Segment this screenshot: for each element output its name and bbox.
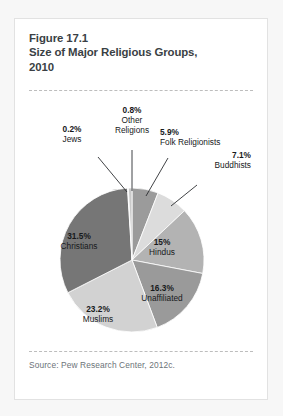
label-unaffiliated-pct: 16.3% [125,283,199,293]
label-hindus: 15% Hindus [133,237,191,257]
label-buddhists: 7.1% Buddhists [143,150,251,170]
label-folk-religionists-name: Folk Religionists [160,137,220,147]
label-muslims: 23.2% Muslims [66,304,130,324]
label-hindus-name: Hindus [133,247,191,257]
label-christians-name: Christians [45,241,113,251]
divider-bottom [29,351,253,352]
label-jews-name: Jews [49,134,95,144]
label-unaffiliated: 16.3% Unaffiliated [125,283,199,303]
label-christians: 31.5% Christians [45,231,113,251]
label-jews: 0.2% Jews [49,124,95,144]
label-folk-religionists: 5.9% Folk Religionists [160,127,220,147]
label-buddhists-name: Buddhists [143,160,251,170]
label-christians-pct: 31.5% [45,231,113,241]
label-muslims-pct: 23.2% [66,304,130,314]
label-other-religions-pct: 0.8% [97,105,167,115]
label-muslims-name: Muslims [66,314,130,324]
label-other-religions-name2: Religions [97,125,167,135]
pie-chart [15,19,269,401]
leader-line-buddhists [171,185,197,206]
label-unaffiliated-name: Unaffiliated [125,293,199,303]
label-folk-religionists-pct: 5.9% [160,127,220,137]
label-other-religions-name: Other [97,115,167,125]
label-hindus-pct: 15% [133,237,191,247]
source-note: Source: Pew Research Center, 2012c. [29,360,175,370]
label-buddhists-pct: 7.1% [143,150,251,160]
label-other-religions: 0.8% Other Religions [97,105,167,136]
figure-card: Figure 17.1 Size of Major Religious Grou… [14,18,268,400]
leader-line-jews [98,157,127,192]
label-jews-pct: 0.2% [49,124,95,134]
